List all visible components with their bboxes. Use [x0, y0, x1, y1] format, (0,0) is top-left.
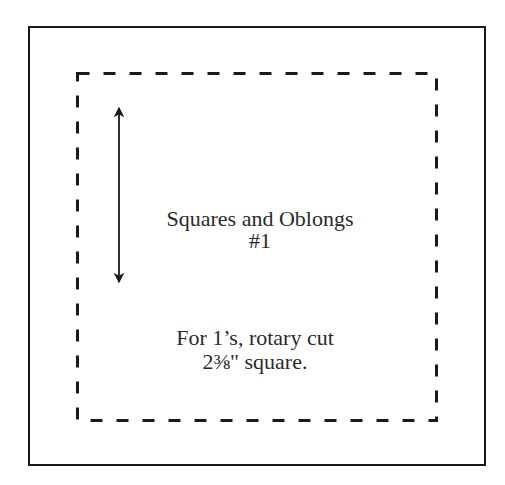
shape-title: Squares and Oblongs #1: [130, 208, 390, 252]
shape-number: #1: [130, 230, 390, 252]
template-diagram: Squares and Oblongs #1 For 1’s, rotary c…: [0, 0, 505, 485]
cutting-instruction: For 1’s, rotary cut 2⅜" square.: [130, 326, 380, 374]
shape-title-line1: Squares and Oblongs: [130, 208, 390, 230]
instruction-line2: 2⅜" square.: [130, 350, 380, 374]
instruction-line1: For 1’s, rotary cut: [130, 326, 380, 350]
